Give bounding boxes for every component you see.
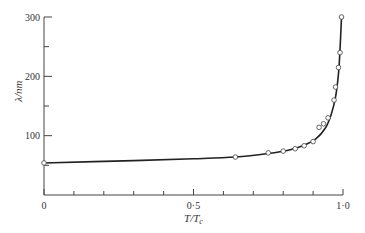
data-point [233, 155, 238, 160]
data-point [317, 125, 322, 130]
data-point [293, 146, 298, 151]
data-point [311, 139, 316, 144]
x-tick-label: 0·5 [187, 200, 200, 211]
data-point [336, 65, 341, 70]
data-point [302, 143, 307, 148]
y-axis-title: λ/nm [12, 80, 24, 102]
data-point [42, 161, 47, 166]
data-point [321, 122, 326, 127]
x-tick-label: 1·0 [336, 200, 349, 211]
curve-path [44, 17, 342, 163]
y-tick-label: 200 [25, 71, 40, 82]
axes [44, 17, 343, 195]
y-tick-label: 100 [25, 130, 40, 141]
data-point [281, 149, 286, 154]
data-point [339, 15, 344, 20]
data-point [326, 116, 331, 121]
chart-plot-area: 00·51·0100200300T/Tcλ/nm [0, 0, 365, 233]
axis-labels: 00·51·0100200300T/Tcλ/nm [12, 12, 350, 227]
x-axis-title: T/Tc [184, 212, 203, 226]
x-tick-label: 0 [42, 200, 47, 211]
y-tick-label: 300 [25, 12, 40, 23]
data-point [338, 50, 343, 55]
fit-curve [44, 17, 342, 163]
data-point [333, 85, 338, 90]
data-points [42, 15, 344, 166]
data-point [266, 151, 271, 156]
data-point [332, 98, 337, 103]
